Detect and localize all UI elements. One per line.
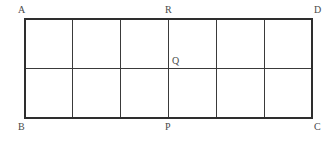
vertex-label-b: B — [18, 122, 25, 132]
grid-svg — [0, 0, 333, 141]
vertex-label-d: D — [314, 5, 321, 15]
geometry-diagram: A D B C R Q P — [0, 0, 333, 141]
point-label-q: Q — [172, 56, 179, 66]
point-label-r: R — [165, 5, 172, 15]
vertex-label-a: A — [18, 5, 25, 15]
point-label-p: P — [165, 122, 171, 132]
vertex-label-c: C — [314, 122, 321, 132]
